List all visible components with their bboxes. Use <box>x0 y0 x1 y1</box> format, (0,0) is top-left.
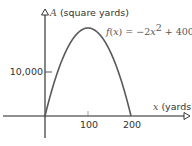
x-tick-label-200: 200 <box>123 119 141 130</box>
y-axis-label: A (square yards) <box>49 7 129 18</box>
x-axis-arrow-icon <box>184 113 190 120</box>
function-label: f(x) = −2x2 + 400x <box>105 22 192 37</box>
x-tick-label-100: 100 <box>80 119 98 130</box>
y-tick-label-10000: 10,000 <box>10 66 43 77</box>
y-axis-arrow-icon <box>42 9 49 15</box>
x-axis-label: x (yards) <box>153 101 192 112</box>
parabola-chart: 10,000 100 200 A (square yards) x (yards… <box>0 0 192 146</box>
parabola-curve <box>45 28 131 116</box>
